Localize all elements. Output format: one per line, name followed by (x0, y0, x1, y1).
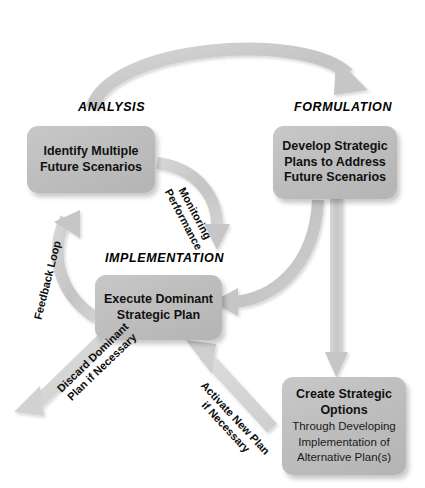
node-create-options-sub2: Implementation of (298, 435, 389, 450)
node-develop-plans-line1: Develop Strategic (282, 139, 388, 155)
arrow-formulation-to-options (325, 198, 348, 378)
node-develop-plans[interactable]: Develop Strategic Plans to Address Futur… (273, 126, 397, 199)
node-create-options-line1: Create Strategic (296, 387, 392, 403)
node-develop-plans-line3: Future Scenarios (284, 170, 386, 186)
node-create-options-sub3: Alternative Plan(s) (297, 450, 391, 465)
node-identify-scenarios[interactable]: Identify Multiple Future Scenarios (27, 126, 155, 193)
phase-label-analysis: ANALYSIS (78, 100, 145, 114)
node-identify-scenarios-line2: Future Scenarios (40, 160, 142, 176)
node-create-options-line2: Options (320, 403, 367, 419)
node-develop-plans-line2: Plans to Address (284, 155, 386, 171)
node-execute-plan-line1: Execute Dominant (104, 292, 213, 308)
node-identify-scenarios-line1: Identify Multiple (43, 144, 138, 160)
node-create-options-sub1: Through Developing (292, 419, 396, 434)
arrow-formulation-to-execute (212, 200, 318, 316)
phase-label-formulation: FORMULATION (294, 100, 392, 114)
strategic-planning-diagram: ANALYSIS FORMULATION IMPLEMENTATION Iden… (0, 0, 425, 488)
node-create-options[interactable]: Create Strategic Options Through Develop… (282, 377, 406, 475)
